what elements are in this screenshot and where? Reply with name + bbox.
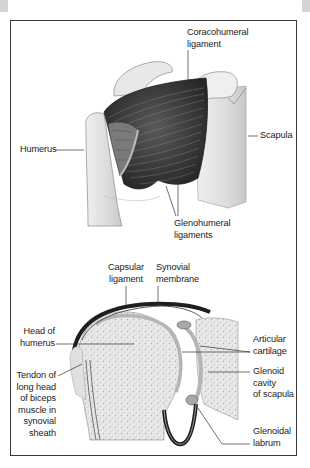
- label-glenohumeral-ligaments: Glenohumeral ligaments: [174, 218, 231, 241]
- label-glenoid-cavity: Glenoid cavity of scapula: [253, 366, 294, 401]
- label-scapula: Scapula: [260, 130, 293, 142]
- label-articular-cartilage: Articular cartilage: [253, 334, 287, 357]
- label-head-of-humerus: Head of humerus: [10, 326, 55, 349]
- label-coracohumeral-ligament: Coracohumeral ligament: [187, 27, 249, 50]
- label-capsular-ligament: Capsular ligament: [94, 262, 158, 285]
- label-synovial-membrane: Synovial membrane: [156, 262, 199, 285]
- top-anatomy: [86, 62, 246, 226]
- label-tendon-biceps: Tendon of long head of biceps muscle in …: [10, 370, 56, 439]
- label-humerus: Humerus: [20, 144, 57, 156]
- bottom-anatomy: [70, 304, 238, 444]
- label-glenoidal-labrum: Glenoidal labrum: [253, 426, 291, 449]
